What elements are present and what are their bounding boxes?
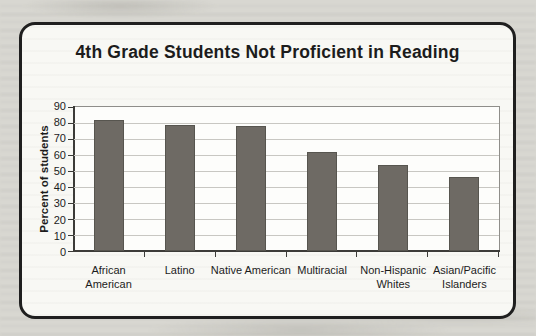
- y-tick-mark: [68, 123, 73, 124]
- y-tick-mark: [68, 219, 73, 220]
- bar: [378, 165, 408, 251]
- gridline: [74, 171, 499, 172]
- y-tick-label: 30: [54, 197, 66, 209]
- y-tick-label: 0: [60, 246, 66, 258]
- x-tick-mark: [144, 252, 145, 257]
- y-tick-label: 10: [54, 230, 66, 242]
- gridline: [74, 187, 499, 188]
- gridline: [74, 235, 499, 236]
- category-label: Asian/Pacific Islanders: [423, 264, 505, 291]
- y-tick-label: 90: [54, 100, 66, 112]
- y-tick-label: 80: [54, 116, 66, 128]
- y-tick-label: 60: [54, 149, 66, 161]
- y-tick-mark: [68, 155, 73, 156]
- y-tick-label: 20: [54, 214, 66, 226]
- bar: [307, 152, 337, 251]
- y-tick-mark: [68, 171, 73, 172]
- x-tick-mark: [215, 252, 216, 257]
- category-label: Latino: [139, 264, 221, 278]
- gridline: [74, 219, 499, 220]
- gridline: [74, 155, 499, 156]
- bar: [449, 177, 479, 251]
- category-label: Non-Hispanic Whites: [352, 264, 434, 291]
- gridline: [74, 123, 499, 124]
- category-label: Native American: [210, 264, 292, 278]
- y-tick-label: 40: [54, 181, 66, 193]
- y-tick-mark: [68, 251, 73, 252]
- category-labels: African AmericanLatinoNative AmericanMul…: [73, 264, 500, 296]
- chart-title: 4th Grade Students Not Proficient in Rea…: [19, 41, 516, 63]
- x-tick-mark: [498, 252, 499, 257]
- x-tick-mark: [427, 252, 428, 257]
- chart-title-text: 4th Grade Students Not Proficient in Rea…: [75, 41, 459, 63]
- plot-area: [73, 106, 500, 252]
- bar: [165, 125, 195, 251]
- category-label: African American: [68, 264, 150, 291]
- x-axis-line: [73, 250, 500, 252]
- y-tick-mark: [68, 203, 73, 204]
- y-tick-mark: [68, 107, 73, 108]
- y-tick-label: 50: [54, 165, 66, 177]
- gridline: [74, 203, 499, 204]
- x-tick-mark: [356, 252, 357, 257]
- y-tick-mark: [68, 235, 73, 236]
- bar: [236, 126, 266, 251]
- gridline: [74, 139, 499, 140]
- y-axis-line: [73, 106, 75, 252]
- category-label: Multiracial: [281, 264, 363, 278]
- y-axis-labels: 0102030405060708090: [0, 106, 66, 252]
- y-tick-mark: [68, 187, 73, 188]
- y-tick-label: 70: [54, 132, 66, 144]
- bar: [94, 120, 124, 251]
- x-tick-mark: [286, 252, 287, 257]
- y-tick-mark: [68, 139, 73, 140]
- scanned-page: 4th Grade Students Not Proficient in Rea…: [0, 0, 536, 336]
